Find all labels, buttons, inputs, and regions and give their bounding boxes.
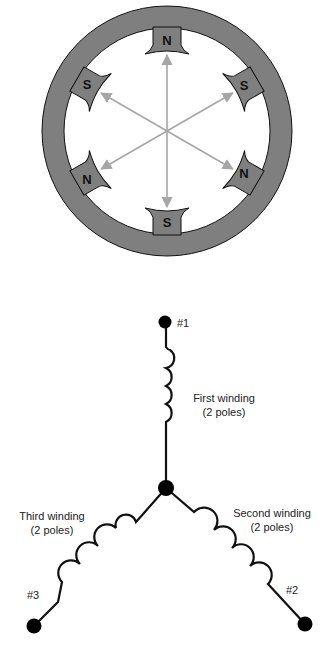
stator-ring: N S N S N S [42, 6, 292, 256]
pole-label-upper-left: S [83, 77, 92, 92]
second-winding-poles: (2 poles) [251, 521, 294, 533]
center-node-dot [158, 480, 174, 496]
pole-label-top: N [162, 33, 171, 48]
first-winding-poles: (2 poles) [203, 406, 246, 418]
second-winding-name: Second winding [233, 507, 311, 519]
pole-label-upper-right: S [240, 78, 249, 93]
wye-winding-diagram [34, 322, 305, 626]
stepper-motor-diagram: N S N S N S #1 #2 #3 First winding (2 po… [0, 0, 327, 651]
third-winding [34, 488, 166, 626]
third-winding-poles: (2 poles) [31, 524, 74, 536]
pole-label-lower-right: N [239, 166, 248, 181]
terminal-1-dot [159, 316, 172, 329]
pole-label-bottom: S [163, 215, 172, 230]
terminal-2-dot [298, 617, 313, 632]
terminal-3-dot [27, 619, 42, 634]
first-winding-name: First winding [193, 392, 255, 404]
third-winding-name: Third winding [19, 510, 84, 522]
terminal-3-label: #3 [27, 589, 39, 601]
pole-label-lower-left: N [82, 172, 91, 187]
terminal-2-label: #2 [286, 584, 298, 596]
first-winding [166, 322, 174, 488]
terminal-1-label: #1 [177, 317, 189, 329]
